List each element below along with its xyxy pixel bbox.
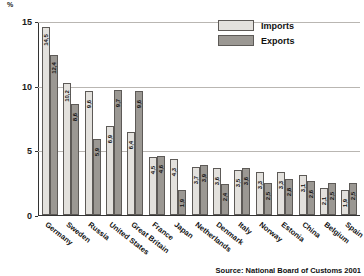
y-axis-unit-label: % xyxy=(7,1,13,8)
bar-exports: 2,5 xyxy=(328,183,336,215)
bar-exports: 2,5 xyxy=(349,183,357,215)
bar-exports: 3,6 xyxy=(242,168,250,215)
bar-chart: % 14,512,410,28,69,65,96,99,76,49,64,54,… xyxy=(0,0,364,276)
bar-value-label: 6,4 xyxy=(127,141,135,149)
bar-group: 4,54,6 xyxy=(146,22,167,215)
bar-exports: 8,6 xyxy=(71,104,79,215)
y-tick-mark xyxy=(35,22,38,23)
bar-value-label: 3,3 xyxy=(256,181,264,189)
bar-group: 10,28,6 xyxy=(60,22,81,215)
bar-group: 9,65,9 xyxy=(82,22,103,215)
x-axis-line xyxy=(38,215,360,216)
legend-item-exports: Exports xyxy=(218,35,295,46)
category-label: Japan xyxy=(168,218,189,274)
bar-value-label: 2,4 xyxy=(221,193,229,201)
bar-groups: 14,512,410,28,69,65,96,99,76,49,64,54,64… xyxy=(39,22,360,215)
category-label-text: Spain xyxy=(344,220,364,240)
legend-item-imports: Imports xyxy=(218,20,295,31)
bar-imports: 3,6 xyxy=(213,168,221,215)
bar-imports: 14,5 xyxy=(42,27,50,215)
bar-value-label: 12,4 xyxy=(50,62,58,74)
bar-value-label: 2,8 xyxy=(285,188,293,196)
bar-value-label: 3,9 xyxy=(200,173,208,181)
y-tick-label: 0 xyxy=(12,211,32,221)
bar-value-label: 3,3 xyxy=(277,181,285,189)
bar-value-label: 4,5 xyxy=(149,166,157,174)
bar-exports: 3,9 xyxy=(200,165,208,215)
bar-group: 2,12,5 xyxy=(317,22,338,215)
bar-value-label: 3,1 xyxy=(299,184,307,192)
y-tick-mark xyxy=(35,151,38,152)
bar-group: 3,53,6 xyxy=(232,22,253,215)
bar-group: 3,32,5 xyxy=(253,22,274,215)
bar-value-label: 2,6 xyxy=(307,190,315,198)
bar-group: 14,512,4 xyxy=(39,22,60,215)
legend-label-imports: Imports xyxy=(261,21,294,31)
bar-exports: 2,4 xyxy=(221,184,229,215)
bar-value-label: 3,6 xyxy=(213,177,221,185)
bar-imports: 3,3 xyxy=(277,172,285,215)
bar-imports: 3,7 xyxy=(192,167,200,215)
bar-imports: 6,9 xyxy=(106,126,114,215)
bar-imports: 6,4 xyxy=(127,132,135,215)
bar-group: 3,12,6 xyxy=(296,22,317,215)
bar-exports: 2,5 xyxy=(264,183,272,215)
category-label: United States xyxy=(103,218,124,274)
source-note: Source: National Board of Customs 2001 xyxy=(216,266,361,275)
bar-imports: 4,3 xyxy=(170,159,178,215)
category-label: France xyxy=(146,218,167,274)
category-label: Great Britain xyxy=(125,218,146,274)
y-tick-mark xyxy=(35,87,38,88)
bar-exports: 4,6 xyxy=(157,156,165,215)
bar-exports: 2,8 xyxy=(285,179,293,215)
bar-group: 3,32,8 xyxy=(274,22,295,215)
category-label: Netherlands xyxy=(189,218,210,274)
bar-value-label: 2,5 xyxy=(328,192,336,200)
bar-value-label: 4,3 xyxy=(170,168,178,176)
bar-value-label: 9,6 xyxy=(135,100,143,108)
legend-label-exports: Exports xyxy=(261,36,295,46)
bar-value-label: 2,1 xyxy=(320,197,328,205)
bar-imports: 3,3 xyxy=(256,172,264,215)
legend-swatch-imports-icon xyxy=(218,20,254,31)
bar-value-label: 14,5 xyxy=(42,35,50,47)
bar-imports: 4,5 xyxy=(149,157,157,215)
category-label: Sweden xyxy=(60,218,81,274)
bar-group: 6,99,7 xyxy=(103,22,124,215)
bar-group: 3,62,4 xyxy=(210,22,231,215)
bar-value-label: 1,9 xyxy=(178,199,186,207)
bar-group: 4,31,9 xyxy=(167,22,188,215)
plot-area: 14,512,410,28,69,65,96,99,76,49,64,54,64… xyxy=(38,22,360,216)
bar-value-label: 9,6 xyxy=(85,100,93,108)
bar-imports: 3,1 xyxy=(299,175,307,215)
bar-value-label: 4,6 xyxy=(157,164,165,172)
y-tick-label: 10 xyxy=(12,82,32,92)
bar-value-label: 3,6 xyxy=(242,177,250,185)
bar-value-label: 8,6 xyxy=(71,113,79,121)
chart-legend: Imports Exports xyxy=(218,20,295,46)
bar-exports: 5,9 xyxy=(93,139,101,215)
bar-group: 6,49,6 xyxy=(125,22,146,215)
category-label: Germany xyxy=(39,218,60,274)
category-label-text: Italy xyxy=(236,220,253,236)
bar-value-label: 2,5 xyxy=(264,192,272,200)
bar-exports: 1,9 xyxy=(178,190,186,215)
legend-swatch-exports-icon xyxy=(218,35,254,46)
y-tick-label: 5 xyxy=(12,146,32,156)
bar-imports: 9,6 xyxy=(85,91,93,215)
bar-exports: 9,6 xyxy=(135,91,143,215)
bar-exports: 12,4 xyxy=(50,55,58,215)
bar-value-label: 3,7 xyxy=(192,176,200,184)
y-tick-mark xyxy=(35,216,38,217)
bar-value-label: 2,5 xyxy=(349,192,357,200)
bar-value-label: 1,9 xyxy=(341,199,349,207)
bar-value-label: 6,9 xyxy=(106,135,114,143)
bar-value-label: 10,2 xyxy=(63,90,71,102)
bar-value-label: 9,7 xyxy=(114,98,122,106)
bar-group: 1,92,5 xyxy=(339,22,360,215)
bar-imports: 2,1 xyxy=(320,188,328,215)
bar-exports: 2,6 xyxy=(307,181,315,215)
y-tick-label: 15 xyxy=(12,17,32,27)
category-label: Russia xyxy=(82,218,103,274)
bar-group: 3,73,9 xyxy=(189,22,210,215)
